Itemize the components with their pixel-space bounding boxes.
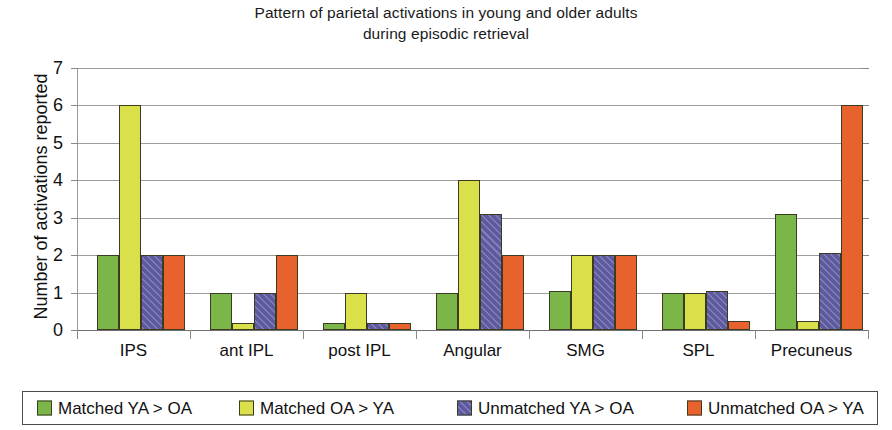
x-tick-label-ips: IPS — [77, 341, 190, 361]
x-axis-tick-labels: IPSant IPLpost IPLAngularSMGSPLPrecuneus — [77, 341, 868, 369]
bar[interactable] — [389, 323, 411, 330]
bar[interactable] — [345, 293, 367, 330]
legend-label: Unmatched OA > YA — [708, 400, 864, 417]
legend-item-0[interactable]: Matched YA > OA — [37, 400, 192, 417]
y-tick-label-4: 4 — [33, 171, 63, 189]
bar[interactable] — [458, 180, 480, 330]
x-tick-1 — [190, 330, 191, 339]
x-tick-7 — [868, 330, 869, 339]
bar[interactable] — [593, 255, 615, 330]
bar-group-precuneus — [775, 68, 863, 330]
legend-item-1[interactable]: Matched OA > YA — [239, 400, 394, 417]
y-tick-label-1: 1 — [33, 284, 63, 302]
y-tick-label-6: 6 — [33, 96, 63, 114]
legend-label: Matched YA > OA — [58, 400, 192, 417]
bar-groups — [77, 68, 868, 330]
bar[interactable] — [841, 105, 863, 330]
x-tick-label-smg: SMG — [529, 341, 642, 361]
bar-group-spl — [662, 68, 750, 330]
bar[interactable] — [728, 321, 750, 330]
bar[interactable] — [141, 255, 163, 330]
bar[interactable] — [367, 323, 389, 330]
bar[interactable] — [97, 255, 119, 330]
bar[interactable] — [232, 323, 254, 330]
x-tick-label-spl: SPL — [642, 341, 755, 361]
legend-swatch-icon — [457, 401, 472, 416]
x-tick-5 — [642, 330, 643, 339]
x-tick-0 — [77, 330, 78, 339]
bar[interactable] — [480, 214, 502, 330]
bar[interactable] — [276, 255, 298, 330]
legend-swatch-icon — [687, 401, 702, 416]
bar[interactable] — [502, 255, 524, 330]
legend-swatch-icon — [239, 401, 254, 416]
bar[interactable] — [323, 323, 345, 330]
bar[interactable] — [436, 293, 458, 330]
bar[interactable] — [819, 253, 841, 330]
x-tick-label-ant-ipl: ant IPL — [190, 341, 303, 361]
x-tick-4 — [529, 330, 530, 339]
legend-swatch-icon — [37, 401, 52, 416]
bar-group-ant-ipl — [210, 68, 298, 330]
bar-group-post-ipl — [323, 68, 411, 330]
bar[interactable] — [163, 255, 185, 330]
bar[interactable] — [684, 293, 706, 330]
chart-title-line-2: during episodic retrieval — [0, 23, 892, 44]
bar[interactable] — [615, 255, 637, 330]
bar-group-smg — [549, 68, 637, 330]
bar[interactable] — [254, 293, 276, 330]
x-tick-label-precuneus: Precuneus — [755, 341, 868, 361]
bar[interactable] — [662, 293, 684, 330]
legend-item-2[interactable]: Unmatched YA > OA — [457, 400, 634, 417]
chart-title: Pattern of parietal activations in young… — [0, 2, 892, 44]
x-tick-3 — [416, 330, 417, 339]
bar[interactable] — [706, 291, 728, 330]
bar[interactable] — [210, 293, 232, 330]
bar-group-ips — [97, 68, 185, 330]
x-tick-6 — [755, 330, 756, 339]
y-tick-label-5: 5 — [33, 134, 63, 152]
chart-legend: Matched YA > OAMatched OA > YAUnmatched … — [22, 391, 878, 425]
plot-area-wrapper: 01234567 — [77, 68, 868, 330]
bar[interactable] — [571, 255, 593, 330]
legend-label: Unmatched YA > OA — [478, 400, 634, 417]
legend-label: Matched OA > YA — [260, 400, 394, 417]
x-tick-label-angular: Angular — [416, 341, 529, 361]
y-tick-label-7: 7 — [33, 59, 63, 77]
bar[interactable] — [797, 321, 819, 330]
x-axis-line — [77, 330, 869, 331]
x-tick-label-post-ipl: post IPL — [303, 341, 416, 361]
y-tick-label-0: 0 — [33, 321, 63, 339]
bar[interactable] — [119, 105, 141, 330]
bar[interactable] — [775, 214, 797, 330]
y-tick-label-2: 2 — [33, 246, 63, 264]
y-tick-label-3: 3 — [33, 209, 63, 227]
legend-item-3[interactable]: Unmatched OA > YA — [687, 400, 864, 417]
x-tick-2 — [303, 330, 304, 339]
bar[interactable] — [549, 291, 571, 330]
chart-title-line-1: Pattern of parietal activations in young… — [0, 2, 892, 23]
bar-group-angular — [436, 68, 524, 330]
